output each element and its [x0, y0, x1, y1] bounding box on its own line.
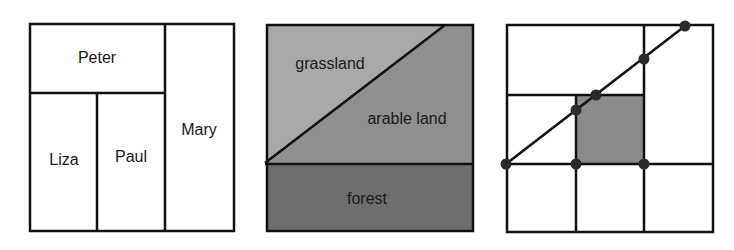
point-icon — [680, 21, 691, 32]
label-grassland: grassland — [295, 55, 364, 72]
panel-partition: Peter Liza Paul Mary — [30, 24, 234, 231]
label-arable-land: arable land — [367, 110, 446, 127]
point-icon — [639, 159, 650, 170]
label-mary: Mary — [181, 121, 217, 138]
point-icon — [501, 159, 512, 170]
panel-grid-line — [501, 21, 714, 233]
label-peter: Peter — [78, 49, 117, 66]
highlight-square — [576, 95, 644, 164]
label-paul: Paul — [115, 148, 147, 165]
point-icon — [639, 54, 650, 65]
diagram-canvas: Peter Liza Paul Mary grassland arable la… — [0, 0, 734, 250]
panel-land-use: grassland arable land forest — [265, 25, 473, 231]
point-icon — [571, 105, 582, 116]
label-liza: Liza — [49, 151, 78, 168]
point-icon — [591, 90, 602, 101]
point-icon — [571, 159, 582, 170]
label-forest: forest — [347, 190, 388, 207]
